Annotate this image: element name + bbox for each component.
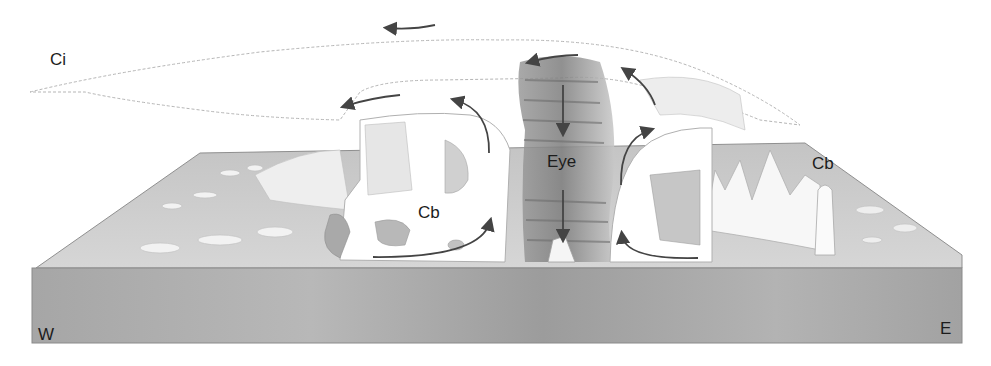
label-eye: Eye bbox=[547, 153, 576, 170]
label-cirrus: Ci bbox=[50, 51, 66, 68]
ocean-front-face bbox=[32, 268, 962, 343]
label-east: E bbox=[940, 320, 951, 337]
label-cumulonimbus-right: Cb bbox=[812, 155, 834, 172]
label-cumulonimbus-left: Cb bbox=[418, 204, 440, 221]
label-west: W bbox=[38, 326, 54, 343]
hurricane-diagram bbox=[0, 0, 991, 366]
outflow-arrow-top bbox=[388, 25, 435, 29]
